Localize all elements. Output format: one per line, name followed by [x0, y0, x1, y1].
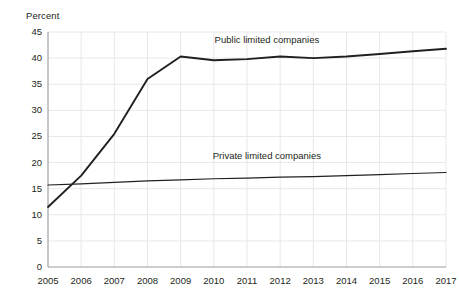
- series-label-private: Private limited companies: [213, 151, 321, 161]
- chart-container: Percent 051015202530354045 2005200620072…: [0, 0, 459, 302]
- series-label-public: Public limited companies: [215, 35, 320, 45]
